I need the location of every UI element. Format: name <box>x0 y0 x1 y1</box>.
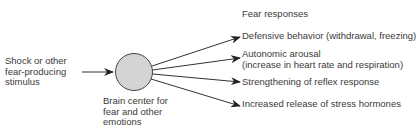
output-label-line: Increased release of stress hormones <box>242 99 401 110</box>
center-label: Brain center for fear and other emotions <box>103 96 168 128</box>
input-label-line: Shock or other <box>5 56 67 67</box>
output-label-line: (increase in heart rate and respiration) <box>242 60 403 71</box>
input-label-line: stimulus <box>5 77 67 88</box>
outputs-header: Fear responses <box>242 9 308 20</box>
output-label-line: Autonomic arousal <box>242 49 403 60</box>
output-label-1: Defensive behavior (withdrawal, freezing… <box>242 31 416 42</box>
output-arrow-2 <box>153 58 241 70</box>
input-label: Shock or other fear-producing stimulus <box>5 56 67 88</box>
output-label-4: Increased release of stress hormones <box>242 99 401 110</box>
output-label-3: Strengthening of reflex response <box>242 77 379 88</box>
output-label-line: Defensive behavior (withdrawal, freezing… <box>242 31 416 42</box>
output-label-line: Strengthening of reflex response <box>242 77 379 88</box>
center-label-line: emotions <box>103 117 168 128</box>
center-label-line: Brain center for <box>103 96 168 107</box>
output-label-2: Autonomic arousal (increase in heart rat… <box>242 49 403 70</box>
brain-center-node <box>116 54 153 91</box>
output-arrow-3 <box>153 74 241 82</box>
output-arrow-1 <box>152 37 240 66</box>
